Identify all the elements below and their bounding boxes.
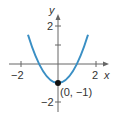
vertex-label: (0, −1) bbox=[60, 86, 92, 98]
x-tick-label-pos2: 2 bbox=[92, 69, 98, 81]
y-tick-label-pos2: 2 bbox=[47, 20, 53, 32]
y-axis-label: y bbox=[48, 4, 56, 16]
x-tick-label-neg2: −2 bbox=[11, 69, 24, 81]
parabola-plot: y 2 −2 −2 2 x (0, −1) bbox=[0, 0, 122, 121]
x-axis-label: x bbox=[103, 69, 110, 81]
y-axis-arrow-icon bbox=[56, 14, 61, 20]
x-axis-arrow-icon bbox=[103, 62, 109, 67]
y-tick-label-neg2: −2 bbox=[41, 96, 54, 108]
